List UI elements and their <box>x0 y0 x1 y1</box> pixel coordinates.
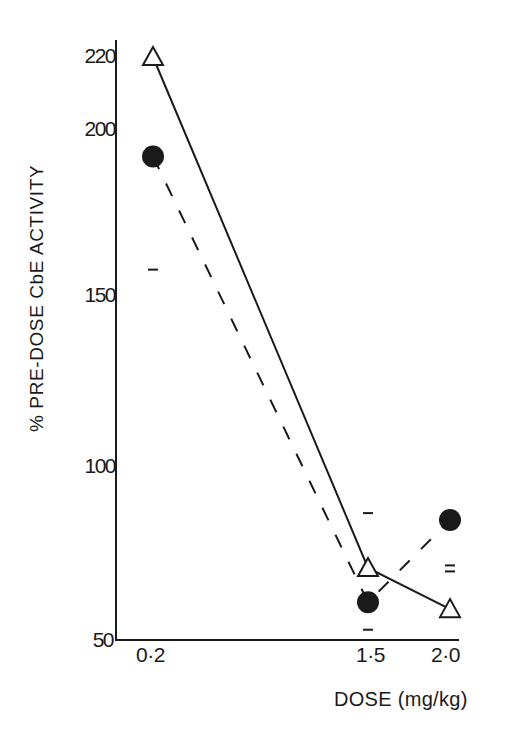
y-tick-label: 150 <box>55 283 115 307</box>
y-axis-title: % PRE-DOSE CbE ACTIVITY <box>26 165 48 432</box>
x-axis-title: DOSE (mg/kg) <box>334 688 468 711</box>
circle-marker-icon <box>142 145 164 167</box>
circle-marker-icon <box>439 509 461 531</box>
x-tick-label: 2·0 <box>431 643 460 667</box>
y-tick-label: 220 <box>55 44 115 68</box>
y-tick-label: 50 <box>53 628 113 652</box>
triangle-marker-icon <box>440 599 460 617</box>
dashed-series-line <box>153 156 450 602</box>
axes <box>116 40 459 641</box>
circle-marker-icon <box>357 591 379 613</box>
triangle-marker-icon <box>358 558 378 576</box>
triangle-marker-icon <box>143 47 163 65</box>
solid-series-line <box>153 57 450 609</box>
y-tick-label: 100 <box>55 454 115 478</box>
x-tick-label: 0·2 <box>136 643 165 667</box>
x-tick-label: 1·5 <box>356 643 385 667</box>
y-tick-label: 200 <box>55 117 115 141</box>
series-layer <box>142 47 461 630</box>
